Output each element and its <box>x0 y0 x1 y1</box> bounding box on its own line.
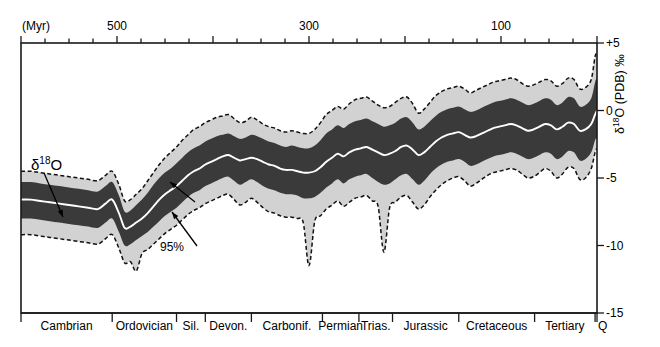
period-label-ordovician: Ordovician <box>116 320 173 332</box>
y-axis-tick-label: +5 <box>606 37 620 49</box>
period-label-jurassic: Jurassic <box>404 320 448 332</box>
period-label-cambrian: Cambrian <box>41 320 93 332</box>
period-label-cretaceous: Cretaceous <box>466 320 527 332</box>
y-axis-tick-label: -15 <box>606 307 623 319</box>
period-label-tertiary: Tertiary <box>545 320 584 332</box>
figure-root: (Myr) δ18O (PDB) ‰ δ18O 68% 95% 50030010… <box>0 0 660 347</box>
y-axis-tick-label: 0 <box>606 105 613 117</box>
period-label-trias: Trias. <box>361 320 391 332</box>
period-label-devon: Devon. <box>209 320 247 332</box>
period-label-carbonif: Carbonif. <box>263 320 312 332</box>
period-label-q: Q <box>598 320 607 332</box>
top-axis-tick-label: 100 <box>491 20 511 32</box>
y-axis-tick-label: -5 <box>606 172 617 184</box>
period-label-permian: Permian <box>318 320 363 332</box>
chart-plot-area <box>0 0 660 347</box>
period-label-sil: Sil. <box>183 320 200 332</box>
y-axis-tick-label: -10 <box>606 240 623 252</box>
top-axis-tick-label: 500 <box>107 20 127 32</box>
top-axis-tick-label: 300 <box>299 20 319 32</box>
